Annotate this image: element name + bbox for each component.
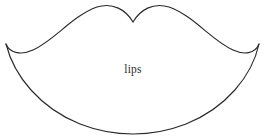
lips-diagram: lips — [0, 0, 266, 140]
shape-label: lips — [0, 62, 266, 76]
lower-lip-path — [6, 44, 259, 134]
upper-lip-path — [6, 5, 259, 52]
